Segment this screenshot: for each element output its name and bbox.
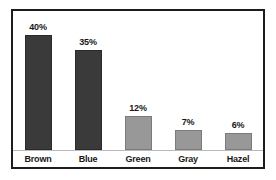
x-axis-category-labels: Brown Blue Green Gray Hazel [13,151,263,167]
bar-rect-gray [175,130,202,150]
category-label-brown: Brown [13,154,63,165]
bar-value-label-blue: 35% [79,37,96,48]
bar-group-gray: 7% [163,11,213,150]
category-label-blue: Blue [63,154,113,165]
bars-region: 40% 35% 12% 7% 6% [13,11,263,150]
category-label-hazel: Hazel [213,154,263,165]
bar-rect-green [125,116,152,150]
bar-value-label-green: 12% [129,103,146,114]
bar-rect-hazel [225,133,252,150]
category-label-green: Green [113,154,163,165]
bar-group-blue: 35% [63,11,113,150]
bar-rect-brown [25,35,52,150]
bar-group-hazel: 6% [213,11,263,150]
bar-chart-figure: 40% 35% 12% 7% 6% Brown Blue Green Gray … [0,0,276,180]
bar-group-brown: 40% [13,11,63,150]
category-label-gray: Gray [163,154,213,165]
bar-rect-blue [75,50,102,150]
bar-value-label-gray: 7% [182,117,195,128]
bar-group-green: 12% [113,11,163,150]
bar-value-label-brown: 40% [29,22,46,33]
bar-value-label-hazel: 6% [232,120,245,131]
